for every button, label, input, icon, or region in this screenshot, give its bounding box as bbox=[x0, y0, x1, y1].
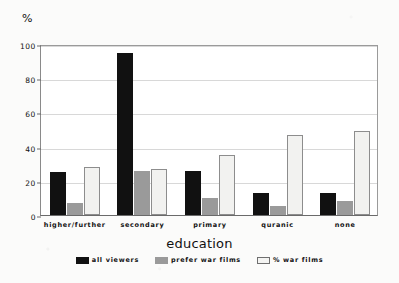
x-tick-label: primary bbox=[193, 221, 227, 229]
legend-label: % war films bbox=[273, 256, 323, 264]
bar bbox=[337, 201, 353, 215]
bar bbox=[270, 206, 286, 215]
legend-item: all viewers bbox=[76, 256, 139, 264]
bar-chart-figure: % 020406080100higher/furthersecondarypri… bbox=[0, 0, 399, 283]
bar bbox=[202, 198, 218, 215]
bar bbox=[134, 171, 150, 215]
chart-legend: all viewersprefer war films% war films bbox=[0, 256, 399, 264]
y-axis-unit-label: % bbox=[22, 12, 33, 25]
legend-item: prefer war films bbox=[155, 256, 241, 264]
bar bbox=[287, 135, 303, 215]
bar bbox=[84, 167, 100, 215]
bar bbox=[67, 203, 83, 215]
bar bbox=[320, 193, 336, 215]
y-tick-label: 60 bbox=[25, 110, 36, 119]
bar-group: none bbox=[311, 46, 379, 215]
y-tick-label: 40 bbox=[25, 144, 36, 153]
bar bbox=[151, 169, 167, 215]
bar-group: higher/further bbox=[41, 46, 109, 215]
bar-group: primary bbox=[176, 46, 244, 215]
x-axis-title: education bbox=[0, 236, 399, 251]
x-tick-label: none bbox=[335, 221, 356, 229]
x-tick-label: quranic bbox=[261, 221, 293, 229]
bar bbox=[50, 172, 66, 215]
legend-swatch bbox=[257, 257, 270, 264]
bar bbox=[219, 155, 235, 215]
y-tick-label: 80 bbox=[25, 76, 36, 85]
legend-swatch bbox=[76, 257, 89, 264]
legend-item: % war films bbox=[257, 256, 323, 264]
legend-swatch bbox=[155, 257, 168, 264]
y-tick-label: 0 bbox=[31, 213, 36, 222]
legend-label: prefer war films bbox=[171, 256, 241, 264]
x-tick-label: higher/further bbox=[44, 221, 106, 229]
bar bbox=[354, 131, 370, 215]
legend-label: all viewers bbox=[92, 256, 139, 264]
plot-area: 020406080100higher/furthersecondaryprima… bbox=[40, 45, 378, 216]
y-tick-label: 20 bbox=[25, 178, 36, 187]
bar-group: secondary bbox=[109, 46, 177, 215]
y-tick-label: 100 bbox=[20, 42, 36, 51]
bar bbox=[117, 53, 133, 215]
y-tick-mark bbox=[37, 217, 41, 218]
bar-group: quranic bbox=[244, 46, 312, 215]
bar bbox=[253, 193, 269, 215]
bar bbox=[185, 171, 201, 215]
x-tick-label: secondary bbox=[120, 221, 164, 229]
